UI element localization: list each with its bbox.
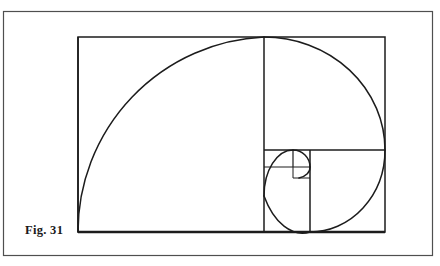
- spiral-arc-3: [310, 150, 385, 232]
- spiral-arc-1: [78, 37, 264, 232]
- figure-page: Fig. 31: [0, 0, 440, 266]
- golden-rectangle-outline: [78, 37, 385, 232]
- spiral-arc-6: [293, 150, 310, 167]
- page-border-rect: [4, 12, 433, 256]
- spiral-arc-5: [264, 150, 293, 196]
- spiral-arc-7: [299, 167, 310, 178]
- figure-caption: Fig. 31: [25, 222, 63, 238]
- spiral-arc-2: [264, 37, 385, 150]
- golden-spiral-figure: [0, 0, 440, 266]
- golden-spiral-curve: [78, 37, 385, 233]
- spiral-arc-4: [264, 196, 310, 233]
